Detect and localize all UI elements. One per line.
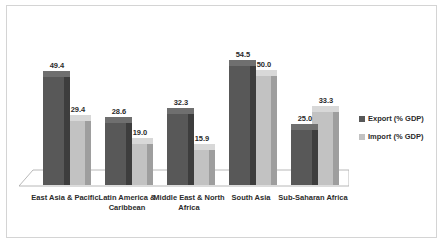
bar-value-label: 25.0 [287,114,323,123]
bar-side-face [209,150,215,185]
chart-frame: 49.429.428.619.032.315.954.550.025.033.3… [6,5,437,238]
bar-side-face [250,66,256,185]
bar-side-face [333,112,339,185]
legend-swatch-import-icon [359,134,365,140]
legend-label-export: Export (% GDP) [368,114,424,123]
bar-side-face [64,77,70,185]
bar-front-face [167,114,188,185]
legend-label-import: Import (% GDP) [368,132,423,141]
bar-value-label: 19.0 [122,128,158,137]
bar-value-label: 50.0 [246,60,282,69]
bar-side-face [147,144,153,185]
category-axis-labels: East Asia & PacificLatin America & Carib… [19,191,349,231]
bar-side-face [271,76,277,185]
legend-item-import[interactable]: Import (% GDP) [359,132,441,141]
bar-side-face [312,130,318,185]
bar-value-label: 33.3 [308,96,344,105]
bar-export[interactable] [167,114,188,185]
bar-export[interactable] [43,77,64,185]
bar-export[interactable] [229,66,250,185]
bar-value-label: 32.3 [163,98,199,107]
bar-side-face [85,121,91,185]
category-label: Sub-Saharan Africa [276,193,350,203]
bar-side-face [188,114,194,185]
bar-front-face [291,130,312,185]
plot-area: 49.429.428.619.032.315.954.550.025.033.3… [19,16,349,231]
bar-value-label: 28.6 [101,107,137,116]
bar-value-label: 29.4 [60,105,96,114]
chart-container: 49.429.428.619.032.315.954.550.025.033.3… [0,0,443,244]
bar-value-label: 54.5 [225,50,261,59]
legend-swatch-export-icon [359,116,365,122]
bar-front-face [229,66,250,185]
bar-export[interactable] [291,130,312,185]
chart-legend: Export (% GDP) Import (% GDP) [359,114,441,150]
legend-item-export[interactable]: Export (% GDP) [359,114,441,123]
bar-front-face [43,77,64,185]
bar-value-label: 15.9 [184,134,220,143]
bar-value-label: 49.4 [39,61,75,70]
